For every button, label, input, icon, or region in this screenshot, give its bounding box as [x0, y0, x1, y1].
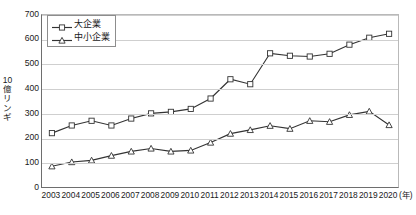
x-axis-tick-labels: 2003200420052006200720082009201020112012…: [41, 190, 399, 204]
gridline: [42, 114, 398, 115]
legend-item-0: 大企業: [51, 18, 110, 31]
gridline: [42, 64, 398, 65]
data-point: [386, 31, 391, 36]
legend-label: 大企業: [73, 19, 101, 30]
data-point: [207, 139, 213, 145]
data-point: [386, 122, 392, 128]
data-point: [49, 131, 54, 136]
data-point: [307, 54, 312, 59]
gridline: [42, 89, 398, 90]
data-point: [347, 42, 352, 47]
data-point: [327, 51, 332, 56]
data-point: [267, 51, 272, 56]
data-point: [69, 123, 74, 128]
data-point: [287, 53, 292, 58]
legend-label: 中小企業: [73, 32, 110, 43]
data-point: [188, 106, 193, 111]
triangle-marker-icon: [51, 32, 73, 43]
square-marker-icon: [51, 19, 73, 30]
y-axis-tick: 400: [13, 84, 39, 93]
y-axis-tick: 100: [13, 158, 39, 167]
y-axis-tick-labels: 0100200300400500600700: [13, 0, 39, 215]
y-axis-tick: 0: [13, 183, 39, 192]
data-point: [129, 116, 134, 121]
y-axis-tick: 200: [13, 133, 39, 142]
data-point: [208, 96, 213, 101]
gridline: [42, 163, 398, 164]
x-axis-unit-label: (年): [399, 190, 413, 200]
line-chart: 10 億 リ ン ギ 0100200300400500600700 200320…: [0, 0, 416, 215]
legend-item-1: 中小企業: [51, 31, 110, 44]
y-axis-tick: 700: [13, 10, 39, 19]
gridline: [42, 139, 398, 140]
data-point: [248, 82, 253, 87]
x-axis-tick: 2020: [375, 190, 401, 200]
data-point: [228, 77, 233, 82]
y-axis-tick: 300: [13, 109, 39, 118]
data-point: [89, 118, 94, 123]
y-axis-tick: 600: [13, 34, 39, 43]
y-axis-tick: 500: [13, 59, 39, 68]
chart-legend: 大企業中小企業: [47, 15, 116, 47]
data-point: [109, 123, 114, 128]
